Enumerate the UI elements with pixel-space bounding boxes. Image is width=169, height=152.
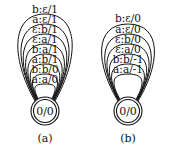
loop-label: a:a/0: [32, 73, 58, 85]
accepting-state-a: 0/0: [31, 97, 59, 125]
diagram-b: b:ε/0 a:ε/0 ε:b/0 ε:a/0 b:b/-1 a:a/-1 0/…: [102, 12, 155, 145]
automata-figure: b:ε/1 a:ε/1 ε:b/1 ε:a/1 b:a/1 a:b/1 b:b/…: [0, 0, 169, 152]
loop-label: a:a/-1: [113, 63, 143, 75]
loop-labels-b: b:ε/0 a:ε/0 ε:b/0 ε:a/0 b:b/-1 a:a/-1: [113, 12, 144, 75]
state-label: 0/0: [36, 105, 54, 118]
accepting-state-b: 0/0: [114, 97, 142, 125]
caption-a: (a): [37, 132, 52, 145]
loop-labels-a: b:ε/1 a:ε/1 ε:b/1 ε:a/1 b:a/1 a:b/1 b:b/…: [31, 3, 58, 85]
caption-b: (b): [120, 132, 136, 145]
diagram-a: b:ε/1 a:ε/1 ε:b/1 ε:a/1 b:a/1 a:b/1 b:b/…: [18, 3, 72, 145]
state-label: 0/0: [119, 105, 137, 118]
